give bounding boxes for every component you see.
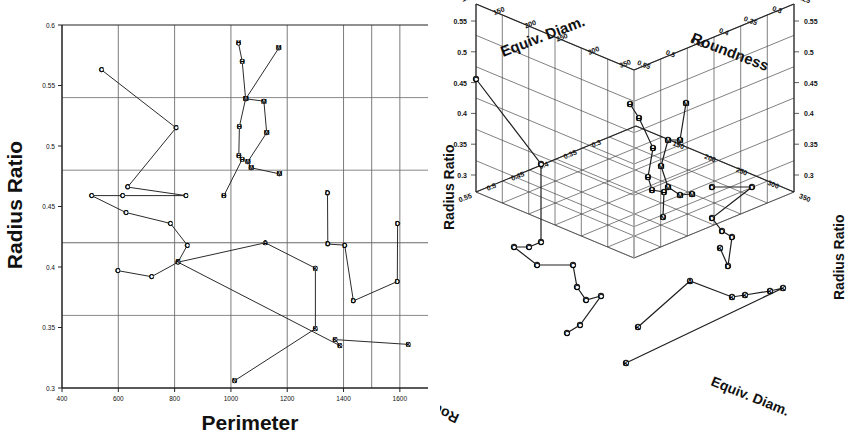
data-point-label: K — [406, 341, 411, 348]
tick-label-radius-ratio-right: 0.45 — [804, 80, 818, 87]
data-point-label: K — [337, 342, 342, 349]
x-tick-label: 800 — [169, 395, 180, 402]
axis-title-roundness-top: Roundness — [689, 29, 771, 74]
tick-label-radius-ratio-right: 0.4 — [804, 110, 814, 117]
y-axis-ticks: 0.30.350.40.450.50.550.6 — [42, 22, 62, 392]
data-point-label: H — [236, 39, 241, 46]
plot-grid — [62, 25, 428, 388]
scatter-3d-svg: 1001502002503003500.550.50.450.40.350.30… — [440, 0, 864, 448]
data-point-label-3d: D — [719, 227, 725, 236]
tick-label-roundness-bottom: 0.35 — [562, 149, 577, 161]
data-point-label: K — [313, 325, 318, 332]
data-point-label: D — [325, 189, 330, 196]
data-point-label-3d: H — [649, 186, 655, 195]
x-tick-label: 1400 — [336, 395, 351, 402]
data-point-label-3d: D — [725, 262, 731, 271]
tick-label-equiv-diam-top: 300 — [587, 45, 601, 56]
data-point-label: D — [395, 220, 400, 227]
data-point-label-3d: C — [564, 329, 570, 338]
data-point-label-3d: C — [583, 296, 589, 305]
data-point-label-3d: K — [729, 293, 735, 302]
data-point-label-3d: A — [687, 277, 693, 286]
figure-root: 4006008001000120014001600 0.30.350.40.45… — [0, 0, 864, 448]
axis-title-radius-ratio-left: Radius Ratio — [441, 144, 457, 230]
x-tick-label: 400 — [57, 395, 68, 402]
data-point-label: A — [263, 239, 268, 246]
y-tick-label: 0.4 — [46, 264, 55, 271]
data-point-label: C — [125, 183, 130, 190]
data-point-label: C — [185, 242, 190, 249]
tick-label-roundness-bottom: 0.3 — [590, 138, 602, 148]
data-point-label: N — [232, 377, 237, 384]
tick-label-radius-ratio-left: 0.3 — [457, 172, 467, 179]
data-point-label: M — [264, 129, 270, 136]
data-point-label: H — [237, 123, 242, 130]
tick-label-equiv-diam-top: 150 — [492, 5, 506, 16]
y-axis-title: Radius Ratio — [3, 141, 26, 269]
data-point-label: D — [395, 278, 400, 285]
tick-label-roundness-top: 0.4 — [718, 27, 730, 37]
data-point-label: K — [175, 258, 180, 265]
data-point-label: K — [313, 265, 318, 272]
y-tick-label: 0.5 — [46, 143, 55, 150]
series-line — [92, 70, 188, 277]
tick-label-radius-ratio-left: 0.55 — [453, 18, 467, 25]
y-tick-label: 0.35 — [42, 324, 55, 331]
data-point-label-3d: H — [645, 173, 651, 182]
data-point-label: M — [261, 98, 267, 105]
data-point-label-3d: N — [660, 213, 666, 222]
series-line — [224, 43, 246, 195]
y-tick-label: 0.45 — [42, 203, 55, 210]
tick-label-roundness-bottom: 0.55 — [457, 192, 472, 204]
data-point-label-3d: D — [729, 233, 735, 242]
data-point-label-3d: H — [650, 144, 656, 153]
x-tick-label: 600 — [113, 395, 124, 402]
data-point-label: D — [325, 240, 330, 247]
data-point-label-3d: M — [665, 183, 672, 192]
data-point-label-3d: M — [665, 136, 672, 145]
data-point-label-3d: D — [709, 183, 715, 192]
data-point-label: M — [243, 95, 249, 102]
data-point-label: D — [342, 242, 347, 249]
data-point-label-3d: C — [534, 261, 540, 270]
tick-label-equiv-diam-top: 200 — [524, 19, 538, 30]
data-point-label-3d: M — [677, 136, 684, 145]
y-tick-label: 0.6 — [46, 22, 55, 29]
data-point-label-3d: K — [767, 287, 773, 296]
data-point-label-3d: M — [683, 99, 690, 108]
data-point-label: K — [333, 336, 338, 343]
data-point-label-3d: D — [749, 183, 755, 192]
data-point-label: C — [183, 192, 188, 199]
tick-label-radius-ratio-left: 0.4 — [457, 110, 467, 117]
data-point-label-3d: K — [635, 323, 641, 332]
data-point-label: C — [89, 192, 94, 199]
data-point-label: D — [351, 297, 356, 304]
data-point-label: C — [123, 209, 128, 216]
tick-label-equiv-diam-bottom: 300 — [767, 179, 781, 190]
data-series-group-3d: CCCCCCCCCCCCHHHHHHNMMMMMMMDDDDDDKKAKKKKK — [473, 75, 786, 368]
series-line-3d — [476, 79, 601, 333]
data-point-label-3d: M — [658, 162, 665, 171]
tick-label-roundness-top: 0.25 — [796, 0, 811, 4]
tick-label-roundness-top: 0.3 — [771, 5, 783, 15]
tick-label-equiv-diam-top: 350 — [618, 58, 632, 69]
tick-label-roundness-top: 0.35 — [743, 15, 758, 26]
series-line — [328, 193, 398, 301]
y-tick-label: 0.55 — [42, 82, 55, 89]
data-point-label-3d: C — [577, 321, 583, 330]
data-point-label: C — [149, 273, 154, 280]
tick-label-radius-ratio-right: 0.55 — [804, 18, 818, 25]
data-point-label-3d: C — [538, 238, 544, 247]
plot-frame — [62, 25, 428, 388]
tick-label-radius-ratio-right: 0.3 — [804, 172, 814, 179]
data-point-label: M — [276, 44, 282, 51]
data-point-label-3d: D — [709, 214, 715, 223]
data-series-group: CCCCCCCCCCCCHHHHHHHMMMMMMMDDDDDDNKKAKKKK — [89, 39, 411, 384]
data-point-label-3d: C — [570, 261, 576, 270]
axis-title-equiv-diam-bottom: Equiv. Diam. — [709, 373, 792, 419]
data-point-label-3d: K — [780, 284, 786, 293]
data-point-label-3d: K — [742, 291, 748, 300]
series-line — [178, 243, 408, 381]
x-axis-title: Perimeter — [202, 411, 299, 434]
data-point-label-3d: H — [636, 114, 642, 123]
